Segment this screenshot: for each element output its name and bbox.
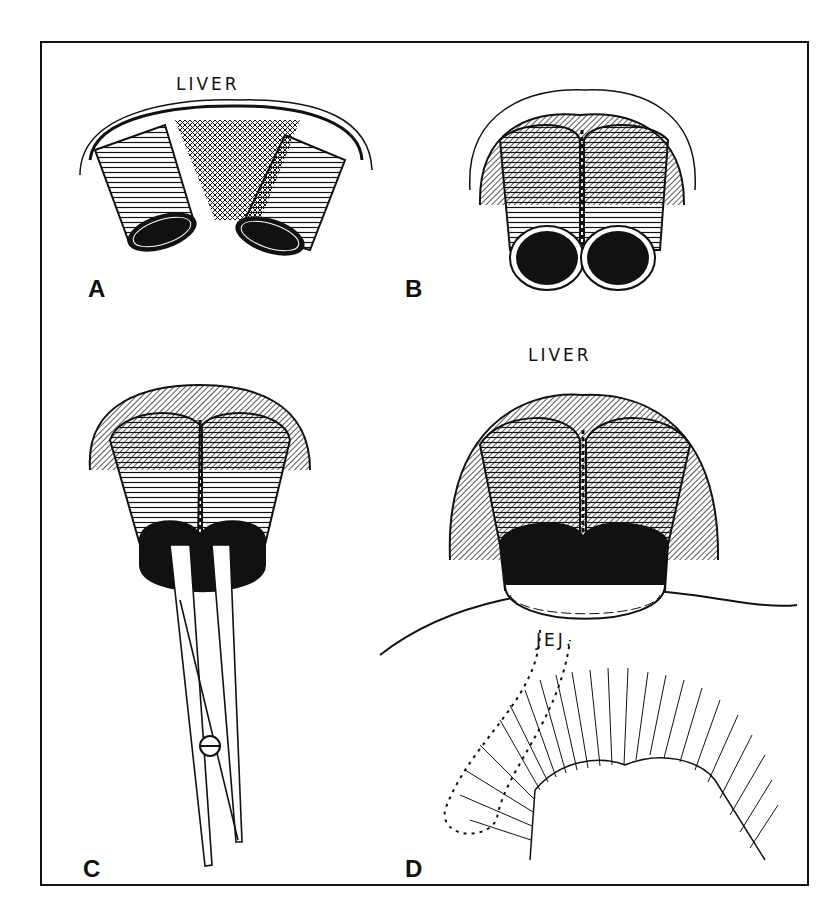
panel-a-illustration [80,100,372,263]
label-liver-d: LIVER [528,345,592,365]
jejunal-loop-dotted [445,630,570,834]
jejunal-anastomosis [505,585,665,619]
panel-b-illustration [470,90,696,290]
illustration-canvas [0,0,837,902]
label-liver-a: LIVER [176,74,240,94]
panel-d-illustration [380,395,797,860]
panel-c-illustration [90,385,310,866]
mesentery [460,668,778,860]
panel-label-c: C [83,855,100,883]
label-jejunum: JEJ. [536,630,574,650]
panel-label-a: A [88,275,105,303]
scissors-icon [170,545,242,866]
panel-label-d: D [405,855,422,883]
panel-label-b: B [405,275,422,303]
